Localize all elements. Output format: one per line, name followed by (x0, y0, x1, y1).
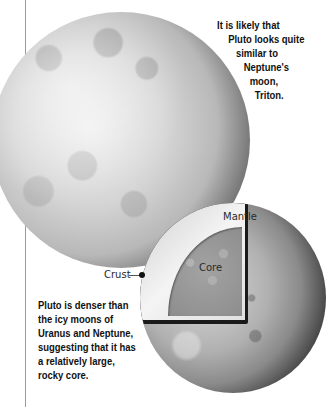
caption-line: It is likely that (217, 18, 293, 32)
crust-pointer-dot (139, 272, 145, 278)
caption-line: Triton. (255, 88, 331, 102)
density-caption: Pluto is denser than the icy moons of Ur… (38, 298, 136, 382)
caption-line: similar to (236, 46, 312, 60)
caption-line: Neptune's (244, 60, 320, 74)
caption-line: Pluto looks quite (228, 32, 304, 46)
caption-line: a relatively large, (38, 354, 136, 368)
caption-line: Uranus and Neptune, (38, 326, 136, 340)
core-label: Core (199, 262, 222, 273)
triton-comparison-caption: It is likely that Pluto looks quite simi… (217, 18, 293, 102)
caption-line: the icy moons of (38, 312, 136, 326)
crust-label: Crust (104, 269, 131, 280)
pluto-cutaway-image (140, 203, 326, 393)
mantle-label: Mantle (223, 211, 257, 222)
caption-line: suggesting that it has (38, 340, 136, 354)
caption-line: moon, (250, 74, 326, 88)
caption-line: rocky core. (38, 368, 136, 382)
caption-line: Pluto is denser than (38, 298, 136, 312)
